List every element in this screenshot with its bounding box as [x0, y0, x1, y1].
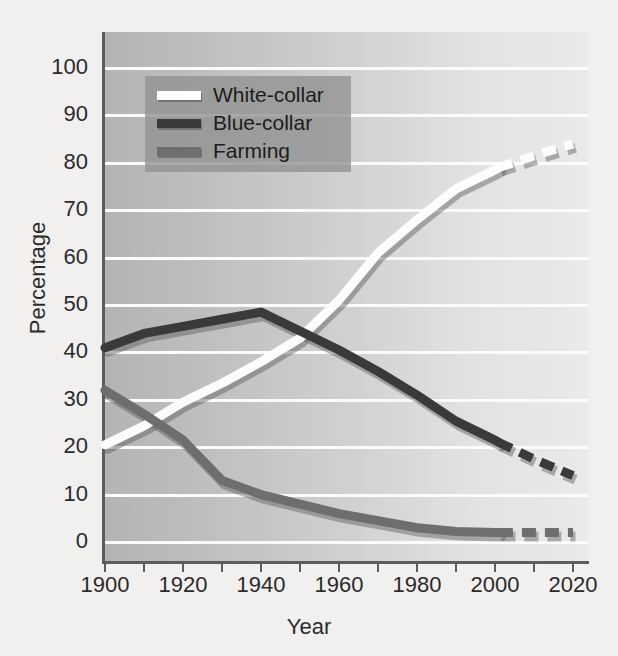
legend: White-collar Blue-collar Farming: [145, 76, 351, 172]
legend-swatch-blue-collar: [157, 119, 201, 128]
x-tick-mark-1970: [377, 562, 379, 572]
x-tick-mark-2000: [494, 562, 496, 572]
y-tick-label-0: 0: [8, 530, 88, 552]
legend-label-farming: Farming: [213, 139, 290, 163]
y-tick-label-80: 80: [8, 151, 88, 173]
legend-swatch-white-collar: [157, 91, 201, 100]
x-tick-label-2000: 2000: [471, 572, 520, 598]
x-tick-mark-1930: [221, 562, 223, 572]
x-tick-label-1980: 1980: [393, 572, 442, 598]
x-tick-mark-1900: [104, 562, 106, 572]
x-tick-mark-1960: [338, 562, 340, 572]
x-tick-label-1960: 1960: [315, 572, 364, 598]
x-tick-mark-2010: [533, 562, 535, 572]
x-tick-mark-1980: [416, 562, 418, 572]
legend-item-white-collar[interactable]: White-collar: [157, 82, 324, 108]
y-tick-label-30: 30: [8, 388, 88, 410]
x-tick-mark-1940: [260, 562, 262, 572]
x-tick-labels: 1900192019401960198020002020: [0, 572, 618, 606]
y-axis-title: Percentage: [25, 178, 51, 378]
legend-item-blue-collar[interactable]: Blue-collar: [157, 110, 312, 136]
legend-label-white-collar: White-collar: [213, 83, 324, 107]
chart-figure: 0102030405060708090100 19001920194019601…: [0, 0, 618, 656]
y-tick-label-90: 90: [8, 103, 88, 125]
x-tick-label-1940: 1940: [237, 572, 286, 598]
x-tick-mark-2020: [572, 562, 574, 572]
x-tick-mark-1950: [299, 562, 301, 572]
y-tick-label-20: 20: [8, 435, 88, 457]
series-projection-shadow-0: [501, 148, 575, 172]
y-tick-label-10: 10: [8, 483, 88, 505]
x-axis-title: Year: [0, 614, 618, 640]
legend-swatch-farming: [157, 147, 201, 156]
x-tick-mark-1920: [182, 562, 184, 572]
x-tick-label-2020: 2020: [549, 572, 598, 598]
y-tick-label-100: 100: [8, 56, 88, 78]
legend-item-farming[interactable]: Farming: [157, 138, 290, 164]
legend-label-blue-collar: Blue-collar: [213, 111, 312, 135]
x-tick-mark-1910: [143, 562, 145, 572]
x-tick-label-1920: 1920: [159, 572, 208, 598]
x-tick-label-1900: 1900: [81, 572, 130, 598]
x-tick-mark-1990: [455, 562, 457, 572]
